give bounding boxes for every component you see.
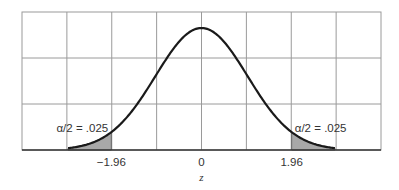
tick-label: 1.96 [280,156,302,168]
tick-label: 0 [198,156,204,168]
alpha-annotation: α/2 = .025 [295,122,347,134]
tick-label: −1.96 [97,156,126,168]
x-axis-label: z [198,171,204,183]
alpha-annotation: α/2 = .025 [56,122,108,134]
normal-distribution-chart: −1.9601.96 α/2 = .025α/2 = .025 z [0,0,399,190]
tick-labels: −1.9601.96 [97,156,303,168]
